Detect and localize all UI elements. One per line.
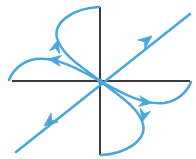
saddle-equilibrium-point — [97, 78, 102, 83]
phase-portrait-figure: Saddle point phase portrait — [0, 0, 196, 159]
phase-portrait-canvas: Saddle point phase portrait — [0, 0, 196, 159]
